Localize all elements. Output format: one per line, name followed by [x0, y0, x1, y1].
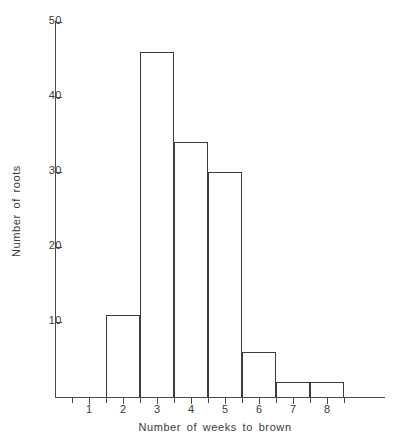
histogram-bar	[208, 172, 242, 397]
x-axis-tick-label: 2	[114, 403, 132, 415]
y-axis-tick-label: 10	[22, 314, 62, 326]
x-axis-tick-label: 3	[148, 403, 166, 415]
histogram-bar	[106, 315, 140, 398]
histogram-figure: 1020304050 12345678 Number of weeks to b…	[0, 0, 400, 444]
y-axis-tick-label: 40	[22, 89, 62, 101]
x-axis-minor-tick	[174, 398, 175, 403]
x-axis-tick-label: 4	[182, 403, 200, 415]
y-axis-line	[55, 21, 56, 398]
y-axis-tick-label: 50	[22, 14, 62, 26]
x-axis-minor-tick	[106, 398, 107, 403]
x-axis-minor-tick	[72, 398, 73, 403]
histogram-bar	[174, 142, 208, 397]
x-axis-minor-tick	[140, 398, 141, 403]
x-axis-line	[55, 397, 385, 398]
histogram-bar	[242, 352, 276, 397]
histogram-bar	[140, 52, 174, 397]
y-axis-label: Number of roots	[10, 121, 22, 301]
y-axis-tick-label: 30	[22, 164, 62, 176]
x-axis-minor-tick	[344, 398, 345, 403]
histogram-bar	[276, 382, 310, 397]
plot-area: 1020304050 12345678	[0, 0, 400, 444]
x-axis-label: Number of weeks to brown	[0, 421, 400, 433]
x-axis-tick-label: 1	[80, 403, 98, 415]
x-axis-minor-tick	[276, 398, 277, 403]
x-axis-tick-label: 8	[318, 403, 336, 415]
x-axis-minor-tick	[310, 398, 311, 403]
x-axis-tick-label: 7	[284, 403, 302, 415]
x-axis-minor-tick	[208, 398, 209, 403]
x-axis-tick-label: 5	[216, 403, 234, 415]
x-axis-minor-tick	[242, 398, 243, 403]
y-axis-tick-label: 20	[22, 239, 62, 251]
x-axis-tick-label: 6	[250, 403, 268, 415]
histogram-bar	[310, 382, 344, 397]
